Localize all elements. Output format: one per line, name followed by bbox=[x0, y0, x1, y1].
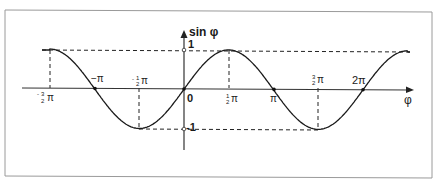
y-minus-one-guide bbox=[139, 129, 318, 130]
sine-diagram: sin φ 1 -1 0 φ - 3 2 π −π - 1 2 π 1 2 π … bbox=[0, 0, 437, 184]
y-tick-minus-1: -1 bbox=[186, 121, 196, 133]
svg-text:2: 2 bbox=[136, 81, 140, 87]
y-axis-arrow-icon bbox=[181, 30, 188, 38]
x-tick-half-pi: 1 2 π bbox=[226, 93, 238, 105]
svg-text:2: 2 bbox=[41, 98, 45, 104]
svg-text:π: π bbox=[141, 75, 148, 86]
x-tick-pi: π bbox=[270, 93, 277, 104]
x-axis bbox=[22, 88, 410, 90]
x-tick-minus-3half-pi: - 3 2 π bbox=[37, 91, 54, 104]
y-axis-label: sin φ bbox=[189, 25, 219, 39]
x-tick-minus-half-pi: - 1 2 π bbox=[132, 75, 148, 87]
svg-text:π: π bbox=[47, 92, 54, 103]
x-tick-3half-pi: 3 2 π bbox=[312, 74, 324, 86]
svg-text:3: 3 bbox=[41, 91, 45, 97]
figure-frame bbox=[5, 10, 432, 178]
svg-text:2: 2 bbox=[226, 99, 230, 105]
x-axis-label: φ bbox=[404, 93, 412, 107]
svg-text:-: - bbox=[132, 76, 134, 82]
svg-text:π: π bbox=[317, 74, 324, 85]
x-tick-2pi: 2π bbox=[352, 74, 366, 86]
origin-label: 0 bbox=[187, 92, 193, 104]
svg-text:-: - bbox=[37, 91, 39, 97]
svg-text:2: 2 bbox=[312, 80, 316, 86]
y-tick-1: 1 bbox=[188, 38, 194, 50]
svg-text:π: π bbox=[231, 93, 238, 104]
x-tick-minus-pi: −π bbox=[91, 73, 104, 84]
y-one-marker bbox=[182, 48, 186, 52]
